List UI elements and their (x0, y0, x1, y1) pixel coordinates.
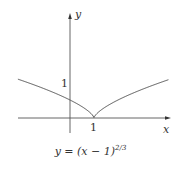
y-tick-label: 1 (61, 77, 68, 90)
y-axis-label: y (75, 8, 81, 21)
equation-caption: y = (x − 1)2/3 (0, 144, 181, 158)
caption-lhs: y = (x − 1) (55, 145, 115, 158)
x-tick-label: 1 (90, 121, 97, 134)
curve-y-equals-x-minus-1-two-thirds (18, 79, 168, 117)
caption-exponent: 2/3 (115, 144, 126, 152)
x-axis-label: x (163, 123, 169, 136)
x-axis-arrow-icon (165, 116, 171, 120)
y-axis-arrow-icon (68, 13, 72, 19)
